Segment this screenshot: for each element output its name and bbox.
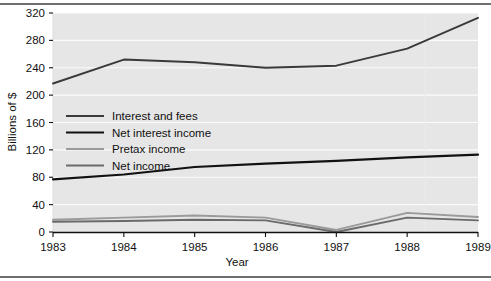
x-axis-tick-label: 1988: [394, 241, 420, 253]
legend-label-0: Interest and fees: [112, 110, 198, 122]
line-chart: 04080120160200240280320 1983198419851986…: [0, 0, 491, 281]
y-axis-tick-label: 0: [39, 226, 45, 238]
y-axis-tick-label: 320: [26, 7, 45, 19]
bottom-rule: [0, 276, 491, 278]
legend-label-2: Pretax income: [112, 143, 186, 155]
y-axis-tick-label: 120: [26, 144, 45, 156]
x-axis-title: Year: [225, 256, 248, 268]
x-axis-tick-label: 1984: [111, 241, 137, 253]
top-rule: [0, 3, 491, 5]
y-axis-tick-label: 160: [26, 117, 45, 129]
chart-figure: 04080120160200240280320 1983198419851986…: [0, 0, 491, 281]
x-axis-tick-label: 1989: [465, 241, 491, 253]
y-axis-title: Billions of $: [6, 92, 18, 151]
y-axis-tick-label: 240: [26, 62, 45, 74]
legend-label-3: Net income: [112, 160, 170, 172]
x-axis-tick-label: 1987: [324, 241, 350, 253]
y-axis-tick-label: 40: [32, 199, 45, 211]
y-axis-tick-label: 280: [26, 34, 45, 46]
y-axis-tick-label: 80: [32, 171, 45, 183]
y-axis-tick-label: 200: [26, 89, 45, 101]
x-axis-tick-label: 1986: [253, 241, 279, 253]
x-axis-tick-label: 1983: [40, 241, 66, 253]
x-axis-tick-label: 1985: [182, 241, 208, 253]
legend-label-1: Net interest income: [112, 127, 211, 139]
